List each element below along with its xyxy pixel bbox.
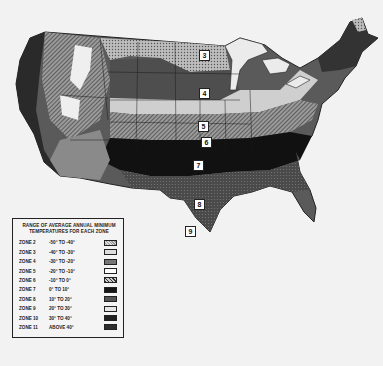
- legend-zone: ZONE 4: [19, 259, 49, 264]
- new-england: [318, 18, 378, 72]
- legend-range: -10° TO 0°: [49, 278, 99, 283]
- legend-range: -50° TO -40°: [49, 240, 99, 245]
- swatch-light-dots: [104, 249, 117, 255]
- legend-row: ZONE 70° TO 10°: [19, 285, 119, 294]
- swatch-light-gray: [104, 306, 117, 312]
- legend-range: 30° TO 40°: [49, 316, 99, 321]
- legend-row: ZONE 1030° TO 40°: [19, 313, 119, 322]
- zone-marker-4: 4: [199, 88, 210, 99]
- zone-marker-6: 6: [201, 137, 212, 148]
- legend-zone: ZONE 10: [19, 316, 49, 321]
- legend-row: ZONE 6-10° TO 0°: [19, 276, 119, 285]
- swatch-light-crosshatch: [104, 240, 117, 246]
- legend-zone: ZONE 7: [19, 287, 49, 292]
- swatch-mid-gray-dots: [104, 296, 117, 302]
- zone-marker-3: 3: [199, 50, 210, 61]
- legend-row: ZONE 920° TO 30°: [19, 304, 119, 313]
- legend-row: ZONE 3-40° TO -30°: [19, 248, 119, 257]
- legend-zone: ZONE 3: [19, 250, 49, 255]
- legend-title-line2: TEMPERATURES FOR EACH ZONE: [19, 229, 119, 235]
- legend-zone: ZONE 2: [19, 240, 49, 245]
- zone-marker-7: 7: [193, 160, 204, 171]
- swatch-near-black: [104, 315, 117, 321]
- legend-row: ZONE 11ABOVE 40°: [19, 323, 119, 332]
- legend-zone: ZONE 6: [19, 278, 49, 283]
- swatch-white: [104, 268, 117, 274]
- zone-legend: RANGE OF AVERAGE ANNUAL MINIMUM TEMPERAT…: [12, 218, 124, 338]
- legend-range: -20° TO -10°: [49, 269, 99, 274]
- legend-range: 0° TO 10°: [49, 287, 99, 292]
- legend-range: -40° TO -30°: [49, 250, 99, 255]
- legend-zone: ZONE 9: [19, 306, 49, 311]
- legend-row: ZONE 2-50° TO -40°: [19, 238, 119, 247]
- legend-range: -30° TO -20°: [49, 259, 99, 264]
- legend-zone: ZONE 8: [19, 297, 49, 302]
- zone-marker-9: 9: [185, 226, 196, 237]
- legend-range: ABOVE 40°: [49, 325, 99, 330]
- legend-title-line1: RANGE OF AVERAGE ANNUAL MINIMUM: [19, 223, 119, 229]
- legend-range: 10° TO 20°: [49, 297, 99, 302]
- legend-range: 20° TO 30°: [49, 306, 99, 311]
- swatch-dark-gray: [104, 259, 117, 265]
- swatch-dark-solid: [104, 324, 117, 330]
- swatch-black: [104, 287, 117, 293]
- zone-marker-8: 8: [194, 199, 205, 210]
- swatch-diagonal-hatch: [104, 277, 117, 283]
- legend-row: ZONE 4-30° TO -20°: [19, 257, 119, 266]
- zone-marker-5: 5: [198, 121, 209, 132]
- legend-row: ZONE 5-20° TO -10°: [19, 266, 119, 275]
- legend-zone: ZONE 11: [19, 325, 49, 330]
- legend-row: ZONE 810° TO 20°: [19, 295, 119, 304]
- legend-zone: ZONE 5: [19, 269, 49, 274]
- legend-title: RANGE OF AVERAGE ANNUAL MINIMUM TEMPERAT…: [19, 223, 119, 234]
